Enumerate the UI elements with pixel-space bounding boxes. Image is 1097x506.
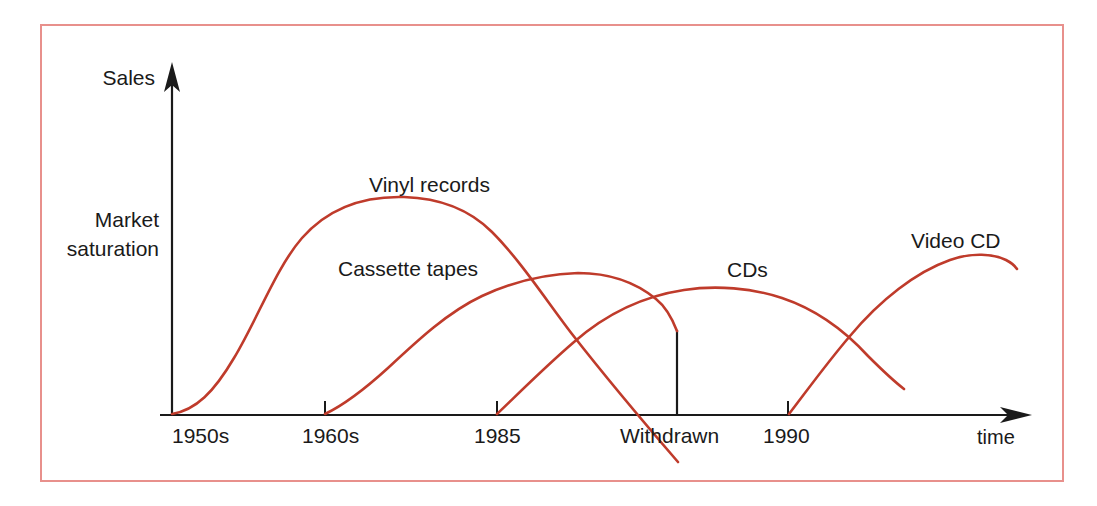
curve-vinyl-records [172,197,678,462]
x-tick-label-1985: 1985 [474,424,521,447]
curve-cassette-tapes [325,273,677,414]
x-tick-label-withdrawn: Withdrawn [620,424,719,447]
series-label-cds: CDs [727,258,768,281]
x-tick-label-1950s: 1950s [172,424,229,447]
series-label-cassette-tapes: Cassette tapes [338,257,478,280]
product-lifecycle-figure: Sales Market saturation 1950s 1960s 1985… [0,0,1097,506]
x-tick-label-1990: 1990 [763,424,810,447]
market-saturation-label-line2: saturation [67,237,159,260]
series-label-vinyl-records: Vinyl records [369,173,490,196]
lifecycle-chart: Sales Market saturation 1950s 1960s 1985… [0,0,1097,506]
x-axis-title: time [977,426,1015,448]
market-saturation-label-line1: Market [95,208,159,231]
y-axis-title: Sales [102,66,155,89]
curve-video-cd [789,255,1017,414]
curve-cds [497,288,904,414]
series-label-video-cd: Video CD [911,229,1001,252]
x-tick-label-1960s: 1960s [302,424,359,447]
figure-border [41,25,1063,481]
